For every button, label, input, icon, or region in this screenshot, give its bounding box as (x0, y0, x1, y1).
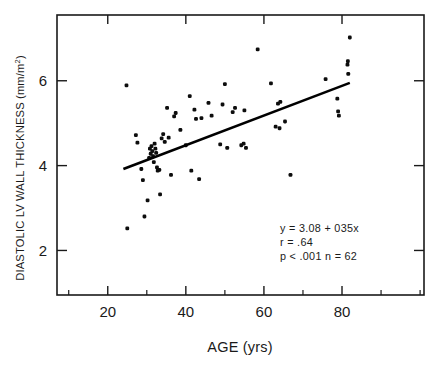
data-point (225, 146, 229, 150)
data-point (337, 114, 341, 118)
data-point (157, 168, 161, 172)
plot-frame (57, 15, 424, 295)
data-point (278, 126, 282, 130)
data-point (160, 137, 164, 141)
data-point (153, 142, 157, 146)
x-tick-label-60: 60 (256, 303, 273, 320)
data-point (154, 151, 158, 155)
data-point (150, 149, 154, 153)
data-point (150, 144, 154, 148)
data-point (233, 106, 237, 110)
data-point (134, 133, 138, 137)
data-point (348, 36, 352, 40)
data-point (169, 173, 173, 177)
data-point (278, 100, 282, 104)
data-point (163, 140, 167, 144)
data-point (146, 198, 150, 202)
data-point (141, 178, 145, 182)
data-point (207, 101, 211, 105)
regression-line-group (123, 83, 349, 169)
data-point (143, 215, 147, 219)
data-point (189, 169, 193, 173)
data-point (335, 97, 339, 101)
data-point (346, 63, 350, 67)
data-point (242, 142, 246, 146)
data-point (243, 109, 247, 113)
data-point (161, 132, 165, 136)
annotation-pvalue-n: p < .001 n = 62 (280, 250, 357, 262)
annotation-equation: y = 3.08 + 035x (280, 222, 359, 234)
y-tick-label-4: 4 (39, 157, 47, 174)
data-point (244, 146, 248, 150)
x-axis-tick-labels: 20406080 (99, 303, 350, 320)
data-point (223, 82, 227, 86)
x-tick-label-40: 40 (177, 303, 194, 320)
data-point (125, 226, 129, 230)
data-point (193, 108, 197, 112)
data-point (125, 84, 129, 88)
data-point (194, 117, 198, 121)
data-point (283, 120, 287, 124)
data-point (274, 125, 278, 129)
data-point (289, 173, 293, 177)
data-point (197, 177, 201, 181)
data-point (218, 142, 222, 146)
regression-annotation: y = 3.08 + 035x r = .64 p < .001 n = 62 (280, 222, 359, 262)
data-point (346, 72, 350, 76)
data-point (178, 128, 182, 132)
data-point (231, 110, 235, 114)
data-point (165, 106, 169, 110)
data-point (200, 116, 204, 120)
data-point (167, 136, 171, 140)
y-axis-major-ticks (57, 81, 424, 251)
y-axis-title: DIASTOLIC LV WALL THICKNESS (mm/m2) (13, 55, 26, 281)
data-point (172, 114, 176, 118)
y-axis-tick-labels: 246 (39, 72, 47, 259)
data-point (269, 81, 273, 85)
data-point (139, 167, 143, 171)
data-point (188, 94, 192, 98)
plot-canvas: 20406080 246 AGE (yrs) DIASTOLIC LV WALL… (0, 0, 436, 368)
data-point (158, 193, 162, 197)
y-tick-label-2: 2 (39, 242, 47, 259)
data-point (221, 103, 225, 107)
scatter-plot-figure: 20406080 246 AGE (yrs) DIASTOLIC LV WALL… (0, 0, 436, 368)
data-point (336, 109, 340, 113)
y-tick-label-6: 6 (39, 72, 47, 89)
data-point (174, 111, 178, 115)
x-axis-title: AGE (yrs) (207, 339, 272, 355)
data-point (346, 59, 350, 63)
data-point (324, 77, 328, 81)
data-points (125, 36, 352, 231)
x-tick-label-20: 20 (99, 303, 116, 320)
data-point (210, 114, 214, 118)
data-point (152, 160, 156, 164)
annotation-correlation: r = .64 (280, 236, 313, 248)
data-point (256, 47, 260, 51)
regression-line (123, 83, 349, 169)
data-point (136, 141, 140, 145)
data-point (153, 147, 157, 151)
x-tick-label-80: 80 (334, 303, 351, 320)
